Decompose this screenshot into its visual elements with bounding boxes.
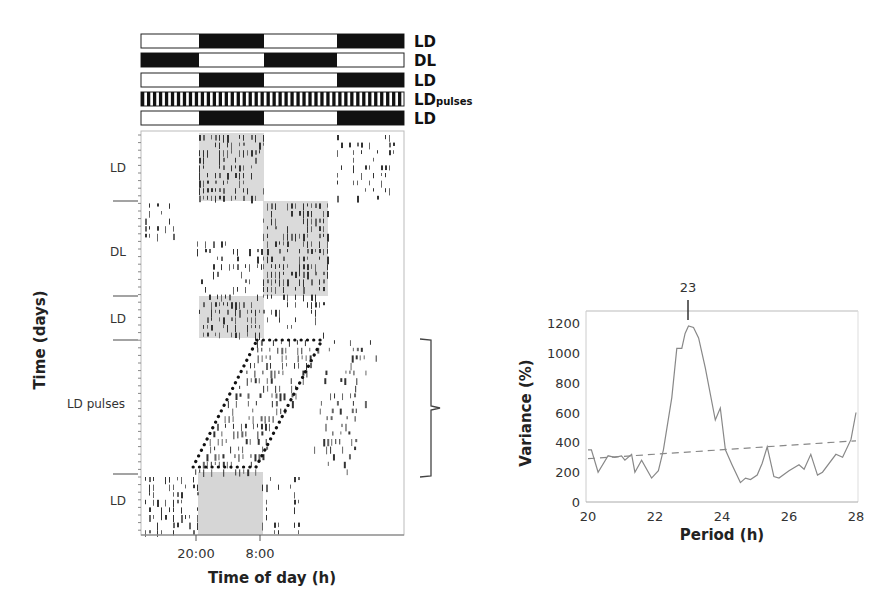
schedule-label-1: LD [414,33,436,51]
periodogram-curve [588,326,856,483]
schedule-label-4: LDpulses [414,91,472,109]
schedule-label-5: LD [414,110,436,128]
x-tick-0800: 8:00 [245,546,274,561]
section-label-ld1: LD [110,161,126,175]
phase-shift-parallelogram [193,340,322,467]
x-tick-20: 20 [580,509,597,524]
y-tick-200: 200 [555,465,580,480]
peak-label: 23 [680,280,697,295]
y-tick-1000: 1000 [547,346,580,361]
schedule-bar-3 [141,73,404,87]
schedule-bar-5 [141,111,404,125]
activity-marks [145,135,395,537]
schedule-bar-4 [141,92,404,106]
x-tick-labels: 2022242628 [580,509,865,524]
schedule-label-2: DL [414,52,436,70]
periodogram-y-axis-title: Variance (%) [517,359,535,466]
y-tick-0: 0 [572,495,580,510]
x-tick-28: 28 [848,509,865,524]
y-tick-1200: 1200 [547,316,580,331]
actogram-y-axis-title: Time (days) [31,290,49,389]
y-tick-labels: 020040060080010001200 [547,316,580,510]
x-tick-24: 24 [714,509,731,524]
dark-shading-ld3 [198,472,263,535]
schedule-bar-2 [141,53,404,67]
actogram-frame [141,131,404,535]
ld-pulses-bracket [420,339,440,477]
x-tick-22: 22 [647,509,664,524]
x-tick-26: 26 [781,509,798,524]
actogram: 20:00 8:00 Time of day (h) Time (days) L… [31,131,440,587]
schedule-bar-1 [141,34,404,48]
section-label-ld-pulses: LD pulses [67,397,125,411]
light-schedule-labels: LDDLLDLDpulsesLD [414,33,472,128]
actogram-x-axis-title: Time of day (h) [208,569,336,587]
y-tick-400: 400 [555,435,580,450]
section-label-dl: DL [110,245,126,259]
figure-canvas: LDDLLDLDpulsesLD 20:00 8:00 Time of day … [0,0,892,616]
y-tick-600: 600 [555,406,580,421]
section-label-ld3: LD [110,494,126,508]
section-label-ld2: LD [110,312,126,326]
schedule-label-3: LD [414,72,436,90]
periodogram-x-axis-title: Period (h) [680,526,764,544]
x-tick-2000: 20:00 [177,546,214,561]
light-schedule-bars [141,34,404,125]
threshold-line [588,441,856,459]
y-tick-800: 800 [555,376,580,391]
dark-shading-dl [263,201,328,296]
periodogram: 23 020040060080010001200 2022242628 Peri… [517,280,864,544]
